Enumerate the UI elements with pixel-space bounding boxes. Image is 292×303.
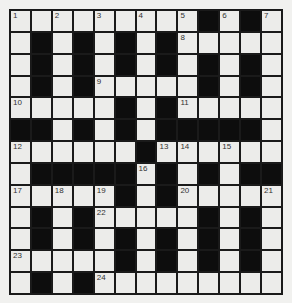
crossword-cell[interactable] <box>53 142 72 162</box>
crossword-cell[interactable] <box>262 98 281 118</box>
crossword-cell[interactable]: 21 <box>262 186 281 206</box>
crossword-cell[interactable] <box>220 229 239 249</box>
crossword-cell[interactable] <box>137 251 156 271</box>
crossword-cell[interactable] <box>262 273 281 293</box>
crossword-cell[interactable] <box>95 98 114 118</box>
crossword-cell[interactable] <box>157 208 176 228</box>
crossword-cell[interactable] <box>262 33 281 53</box>
crossword-cell[interactable] <box>157 273 176 293</box>
crossword-cell[interactable] <box>11 77 30 97</box>
crossword-cell[interactable] <box>178 77 197 97</box>
crossword-cell[interactable] <box>199 273 218 293</box>
crossword-cell[interactable] <box>137 208 156 228</box>
crossword-cell[interactable] <box>220 164 239 184</box>
crossword-cell[interactable] <box>220 33 239 53</box>
crossword-cell[interactable] <box>241 98 260 118</box>
crossword-cell[interactable] <box>116 11 135 31</box>
crossword-cell[interactable] <box>116 142 135 162</box>
crossword-cell[interactable] <box>220 251 239 271</box>
crossword-cell[interactable] <box>262 208 281 228</box>
crossword-cell[interactable] <box>74 251 93 271</box>
crossword-cell[interactable] <box>137 98 156 118</box>
crossword-cell[interactable] <box>116 273 135 293</box>
crossword-cell[interactable]: 16 <box>137 164 156 184</box>
crossword-cell[interactable] <box>95 229 114 249</box>
crossword-cell[interactable] <box>32 186 51 206</box>
crossword-cell[interactable]: 17 <box>11 186 30 206</box>
crossword-cell[interactable] <box>262 77 281 97</box>
crossword-cell[interactable]: 3 <box>95 11 114 31</box>
crossword-cell[interactable]: 24 <box>95 273 114 293</box>
crossword-cell[interactable] <box>53 98 72 118</box>
crossword-cell[interactable] <box>53 77 72 97</box>
crossword-cell[interactable] <box>11 208 30 228</box>
crossword-cell[interactable] <box>262 55 281 75</box>
crossword-cell[interactable] <box>262 251 281 271</box>
crossword-cell[interactable] <box>53 55 72 75</box>
crossword-cell[interactable] <box>241 273 260 293</box>
crossword-cell[interactable] <box>137 77 156 97</box>
crossword-cell[interactable] <box>95 120 114 140</box>
crossword-cell[interactable] <box>11 33 30 53</box>
crossword-cell[interactable] <box>178 273 197 293</box>
crossword-cell[interactable]: 7 <box>262 11 281 31</box>
crossword-cell[interactable]: 8 <box>178 33 197 53</box>
crossword-cell[interactable]: 10 <box>11 98 30 118</box>
crossword-cell[interactable]: 2 <box>53 11 72 31</box>
crossword-cell[interactable] <box>157 11 176 31</box>
crossword-cell[interactable] <box>53 120 72 140</box>
crossword-cell[interactable]: 15 <box>220 142 239 162</box>
crossword-cell[interactable]: 13 <box>157 142 176 162</box>
crossword-cell[interactable] <box>178 208 197 228</box>
crossword-cell[interactable]: 11 <box>178 98 197 118</box>
crossword-cell[interactable] <box>241 142 260 162</box>
crossword-cell[interactable] <box>262 142 281 162</box>
crossword-cell[interactable] <box>74 98 93 118</box>
crossword-cell[interactable] <box>199 142 218 162</box>
crossword-cell[interactable]: 23 <box>11 251 30 271</box>
crossword-cell[interactable]: 18 <box>53 186 72 206</box>
crossword-cell[interactable] <box>199 98 218 118</box>
crossword-cell[interactable] <box>95 33 114 53</box>
crossword-cell[interactable] <box>95 251 114 271</box>
crossword-cell[interactable] <box>137 120 156 140</box>
crossword-cell[interactable] <box>116 208 135 228</box>
crossword-cell[interactable] <box>178 251 197 271</box>
crossword-cell[interactable] <box>178 55 197 75</box>
crossword-cell[interactable] <box>220 208 239 228</box>
crossword-cell[interactable] <box>74 186 93 206</box>
crossword-cell[interactable] <box>220 186 239 206</box>
crossword-cell[interactable]: 4 <box>137 11 156 31</box>
crossword-cell[interactable] <box>53 208 72 228</box>
crossword-cell[interactable] <box>220 77 239 97</box>
crossword-cell[interactable] <box>95 142 114 162</box>
crossword-cell[interactable] <box>11 273 30 293</box>
crossword-cell[interactable] <box>53 251 72 271</box>
crossword-cell[interactable] <box>199 186 218 206</box>
crossword-cell[interactable]: 6 <box>220 11 239 31</box>
crossword-cell[interactable] <box>241 186 260 206</box>
crossword-cell[interactable]: 9 <box>95 77 114 97</box>
crossword-cell[interactable] <box>262 120 281 140</box>
crossword-cell[interactable]: 14 <box>178 142 197 162</box>
crossword-cell[interactable] <box>32 98 51 118</box>
crossword-cell[interactable] <box>137 33 156 53</box>
crossword-cell[interactable]: 19 <box>95 186 114 206</box>
crossword-cell[interactable] <box>74 142 93 162</box>
crossword-cell[interactable] <box>220 273 239 293</box>
crossword-cell[interactable]: 22 <box>95 208 114 228</box>
crossword-cell[interactable] <box>178 229 197 249</box>
crossword-cell[interactable]: 20 <box>178 186 197 206</box>
crossword-cell[interactable] <box>32 142 51 162</box>
crossword-cell[interactable] <box>220 55 239 75</box>
crossword-cell[interactable]: 1 <box>11 11 30 31</box>
crossword-cell[interactable] <box>241 33 260 53</box>
crossword-cell[interactable] <box>53 273 72 293</box>
crossword-cell[interactable] <box>11 229 30 249</box>
crossword-cell[interactable] <box>53 33 72 53</box>
crossword-cell[interactable] <box>116 77 135 97</box>
crossword-cell[interactable]: 5 <box>178 11 197 31</box>
crossword-cell[interactable] <box>137 55 156 75</box>
crossword-cell[interactable] <box>262 229 281 249</box>
crossword-cell[interactable] <box>178 164 197 184</box>
